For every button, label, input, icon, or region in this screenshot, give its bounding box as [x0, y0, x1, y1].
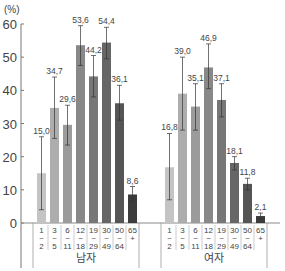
- category-label: 5: [180, 242, 185, 251]
- category-label: 11: [191, 242, 200, 251]
- group-label: 남자: [76, 252, 96, 264]
- bar-groups: 15,01~234,73~529,66~1153,612~1844,219~29…: [33, 15, 267, 268]
- category-label: 2: [167, 242, 172, 251]
- bar-value-label: 37,1: [213, 73, 230, 83]
- category-label: 18: [204, 242, 213, 251]
- bar-value-label: 36,1: [111, 74, 128, 84]
- bar-value-label: 8,6: [127, 176, 139, 186]
- y-tick-label: 20: [3, 150, 17, 165]
- category-label: 5: [52, 242, 57, 251]
- category-label: 2: [39, 242, 44, 251]
- category-label: 11: [63, 242, 72, 251]
- bar: [115, 103, 124, 223]
- bar: [76, 45, 85, 223]
- y-axis-unit-label: (%): [4, 4, 20, 15]
- y-tick-label: 60: [3, 17, 17, 32]
- bar: [230, 163, 239, 223]
- bar: [102, 43, 111, 223]
- category-label: 29: [217, 242, 226, 251]
- category-label: +: [258, 234, 263, 243]
- category-label: 64: [243, 242, 252, 251]
- bar-value-label: 16,8: [161, 122, 178, 132]
- bar-value-label: 29,6: [59, 94, 76, 104]
- bar-value-label: 54,4: [98, 16, 115, 26]
- category-label: 18: [76, 242, 85, 251]
- bar-value-label: 39,0: [174, 46, 191, 56]
- category-label: 49: [102, 242, 111, 251]
- bar-value-label: 2,1: [255, 202, 267, 212]
- category-label: 64: [115, 242, 124, 251]
- bar-value-label: 34,7: [46, 66, 63, 76]
- y-tick-label: 10: [3, 183, 17, 198]
- bar-group-male: 15,01~234,73~529,66~1153,612~1844,219~29…: [33, 15, 139, 268]
- bar: [217, 100, 226, 223]
- category-label: +: [130, 234, 135, 243]
- bar-value-label: 53,6: [72, 15, 89, 25]
- bar-value-label: 44,2: [85, 45, 102, 55]
- y-tick-label: 50: [3, 50, 17, 65]
- y-tick-label: 30: [3, 117, 17, 132]
- bar-value-label: 15,0: [33, 126, 50, 136]
- bar-value-label: 18,1: [226, 146, 243, 156]
- bar-value-label: 35,1: [187, 73, 204, 83]
- bar: [89, 76, 98, 223]
- bar-value-label: 11,8: [240, 167, 256, 177]
- group-label: 여자: [204, 252, 224, 264]
- bar-chart: (%) 0102030405060 15,01~234,73~529,66~11…: [0, 0, 285, 271]
- bar-value-label: 46,9: [200, 33, 217, 43]
- y-tick-label: 40: [3, 83, 17, 98]
- y-tick-label: 0: [10, 216, 17, 231]
- bar-group-female: 16,81~239,03~535,16~1146,912~1837,119~29…: [161, 33, 267, 268]
- category-label: 29: [89, 242, 98, 251]
- category-label: 49: [230, 242, 239, 251]
- bar: [204, 67, 213, 223]
